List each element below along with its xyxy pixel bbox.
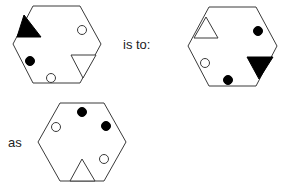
white-circle bbox=[78, 26, 87, 35]
white-circle bbox=[52, 123, 61, 132]
black-circle bbox=[254, 27, 263, 36]
hexagon-3 bbox=[38, 103, 126, 181]
hexagon-1 bbox=[13, 6, 101, 83]
white-circle bbox=[47, 74, 56, 83]
hexagon-outline bbox=[188, 7, 277, 86]
black-circle bbox=[102, 122, 111, 131]
is-to-label: is to: bbox=[123, 38, 150, 51]
as-label: as bbox=[8, 136, 22, 149]
hexagon-2 bbox=[188, 7, 277, 86]
black-circle bbox=[224, 76, 233, 85]
black-circle bbox=[78, 108, 87, 117]
white-circle bbox=[201, 59, 210, 68]
black-circle bbox=[26, 57, 35, 66]
white-circle bbox=[100, 155, 109, 164]
analogy-puzzle-diagram bbox=[0, 0, 282, 188]
